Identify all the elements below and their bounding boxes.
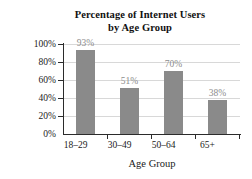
x-category-label-30-49: 30–49 [102, 140, 137, 150]
x-axis-title: Age Group [63, 158, 241, 169]
bar-50-64[interactable] [164, 71, 183, 134]
x-tick-mark-2 [151, 134, 152, 139]
x-tick-mark-4 [239, 134, 240, 139]
y-tick-label-60: 60% [22, 76, 56, 86]
y-tick-mark-100 [58, 44, 63, 45]
x-category-label-50-64: 50–64 [146, 140, 181, 150]
x-tick-mark-3 [195, 134, 196, 139]
y-tick-mark-40 [58, 98, 63, 99]
x-category-label-65-plus: 65+ [190, 140, 225, 150]
bar-18-29[interactable] [76, 50, 95, 134]
y-tick-mark-60 [58, 80, 63, 81]
y-tick-label-0: 0% [22, 130, 56, 140]
plot-area: 93% 51% 70% 38% [63, 44, 240, 134]
y-tick-mark-20 [58, 116, 63, 117]
bar-chart-figure: Percentage of Internet Users by Age Grou… [0, 0, 252, 179]
y-axis-line [63, 43, 64, 135]
chart-title-line-2: by Age Group [40, 22, 240, 35]
bar-30-49[interactable] [120, 88, 139, 134]
x-tick-mark-1 [107, 134, 108, 139]
bar-value-label-18-29: 93% [70, 39, 101, 49]
chart-title-line-1: Percentage of Internet Users [40, 9, 240, 22]
y-tick-label-20: 20% [22, 112, 56, 122]
x-axis-line [63, 134, 241, 135]
x-category-label-18-29: 18–29 [58, 140, 93, 150]
chart-title: Percentage of Internet Users by Age Grou… [40, 9, 240, 34]
y-tick-label-80: 80% [22, 58, 56, 68]
bar-65-plus[interactable] [208, 100, 227, 134]
y-tick-label-100: 100% [22, 40, 56, 50]
y-tick-label-40: 40% [22, 94, 56, 104]
bar-value-label-50-64: 70% [158, 60, 189, 70]
y-tick-mark-80 [58, 62, 63, 63]
bar-value-label-65-plus: 38% [202, 89, 233, 99]
bar-value-label-30-49: 51% [114, 77, 145, 87]
